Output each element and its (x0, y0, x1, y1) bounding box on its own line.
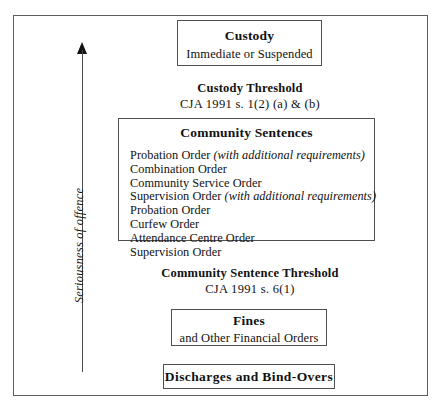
community-sentence-item-note: (with additional requirements) (224, 189, 376, 203)
axis-label: Seriousness of offence (72, 171, 87, 321)
custody-threshold-title: Custody Threshold (140, 80, 360, 96)
community-threshold-reference: CJA 1991 s. 6(1) (135, 281, 365, 297)
custody-threshold-reference: CJA 1991 s. 1(2) (a) & (b) (140, 96, 360, 112)
seriousness-axis: Seriousness of offence (60, 42, 106, 372)
community-sentence-item-name: Combination Order (130, 162, 227, 176)
discharges-box: Discharges and Bind-Overs (163, 364, 335, 389)
community-threshold-title: Community Sentence Threshold (135, 265, 365, 281)
discharges-title: Discharges and Bind-Overs (164, 365, 334, 388)
community-sentence-item: Supervision Order (with additional requi… (130, 190, 374, 204)
community-sentence-item: Probation Order (130, 204, 374, 218)
community-sentences-title: Community Sentences (119, 125, 374, 141)
custody-box: Custody Immediate or Suspended (177, 20, 322, 66)
community-sentences-list: Probation Order (with additional require… (119, 149, 374, 259)
community-sentence-item: Probation Order (with additional require… (130, 149, 374, 163)
community-sentence-item-note: (with additional requirements) (213, 148, 365, 162)
community-sentence-item: Combination Order (130, 163, 374, 177)
community-sentence-item-name: Curfew Order (130, 217, 199, 231)
fines-title: Fines (172, 312, 326, 330)
community-sentence-item: Supervision Order (130, 246, 374, 260)
community-sentence-item-name: Supervision Order (130, 189, 221, 203)
community-sentences-box: Community Sentences Probation Order (wit… (118, 118, 375, 241)
community-sentence-item-name: Probation Order (130, 148, 210, 162)
custody-title: Custody (178, 26, 321, 45)
community-sentence-item-name: Supervision Order (130, 245, 221, 259)
fines-box: Fines and Other Financial Orders (171, 309, 327, 346)
community-sentence-threshold: Community Sentence Threshold CJA 1991 s.… (135, 265, 365, 297)
community-sentence-item: Community Service Order (130, 177, 374, 191)
community-sentence-item-name: Attendance Centre Order (130, 231, 255, 245)
community-sentence-item: Attendance Centre Order (130, 232, 374, 246)
community-sentence-item: Curfew Order (130, 218, 374, 232)
community-sentence-item-name: Probation Order (130, 203, 210, 217)
custody-threshold: Custody Threshold CJA 1991 s. 1(2) (a) &… (140, 80, 360, 112)
fines-subtitle: and Other Financial Orders (172, 330, 326, 347)
custody-subtitle: Immediate or Suspended (178, 45, 321, 64)
sentencing-framework-figure: Seriousness of offence Custody Immediate… (0, 0, 443, 415)
community-sentence-item-name: Community Service Order (130, 176, 262, 190)
